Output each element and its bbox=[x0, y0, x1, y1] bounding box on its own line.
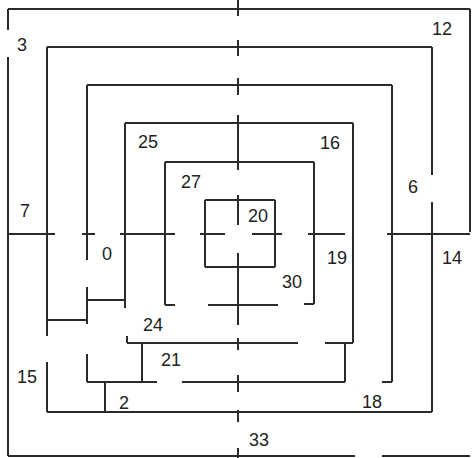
region-label-2: 2 bbox=[119, 394, 129, 412]
region-label-24: 24 bbox=[143, 316, 163, 334]
region-label-27: 27 bbox=[181, 173, 201, 191]
region-label-21: 21 bbox=[161, 351, 181, 369]
region-label-18: 18 bbox=[362, 393, 382, 411]
region-label-3: 3 bbox=[17, 36, 27, 54]
region-label-16: 16 bbox=[320, 134, 340, 152]
region-label-7: 7 bbox=[20, 202, 30, 220]
maze-diagram bbox=[0, 0, 472, 458]
region-label-14: 14 bbox=[442, 249, 462, 267]
region-label-20: 20 bbox=[248, 207, 268, 225]
region-label-0: 0 bbox=[102, 245, 112, 263]
region-label-15: 15 bbox=[17, 368, 37, 386]
region-label-25: 25 bbox=[138, 133, 158, 151]
region-label-19: 19 bbox=[327, 249, 347, 267]
region-label-12: 12 bbox=[432, 20, 452, 38]
region-label-30: 30 bbox=[282, 273, 302, 291]
region-label-6: 6 bbox=[408, 178, 418, 196]
region-label-33: 33 bbox=[249, 431, 269, 449]
